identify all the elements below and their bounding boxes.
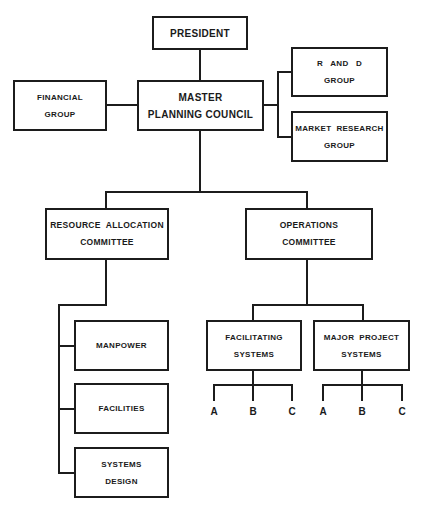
node-label: GROUP [324, 137, 355, 154]
connector-resource-down [105, 259, 107, 306]
node-label: MASTER [178, 89, 222, 106]
node-facilitating-systems: FACILITATING SYSTEMS [206, 320, 302, 371]
connector-to-systems-design [58, 472, 74, 474]
node-master-planning-council: MASTER PLANNING COUNCIL [137, 80, 264, 131]
connector-master-down [199, 130, 201, 193]
node-label: FACILITATING [225, 329, 283, 346]
connector-resource-jog [58, 304, 107, 306]
connector-to-major-project [362, 304, 364, 321]
connector-to-facilities [58, 408, 74, 410]
node-label: MARKET RESEARCH [295, 120, 383, 137]
node-label: PLANNING COUNCIL [148, 106, 253, 123]
connector-major-c [401, 384, 403, 401]
connector-president-master [199, 49, 201, 81]
node-label: COMMITTEE [80, 234, 134, 251]
leaf-major-c: C [394, 406, 410, 417]
connector-committees-bar [105, 191, 308, 193]
node-label: FINANCIAL [37, 89, 83, 106]
leaf-facilitating-a: A [206, 406, 222, 417]
leaf-facilitating-c: C [284, 406, 300, 417]
node-label: MANPOWER [96, 337, 147, 354]
node-label: GROUP [45, 106, 76, 123]
node-facilities: FACILITIES [74, 383, 169, 434]
node-operations-committee: OPERATIONS COMMITTEE [245, 208, 373, 260]
connector-operations-down [306, 259, 308, 306]
connector-to-facilitating [252, 304, 254, 321]
connector-right-bracket-vertical [277, 71, 279, 138]
node-resource-allocation-committee: RESOURCE ALLOCATION COMMITTEE [45, 208, 169, 260]
node-manpower: MANPOWER [74, 320, 169, 371]
node-market-research-group: MARKET RESEARCH GROUP [291, 111, 388, 162]
node-label: R AND D [317, 55, 362, 72]
node-major-project-systems: MAJOR PROJECT SYSTEMS [313, 320, 410, 371]
connector-major-a [322, 384, 324, 401]
node-label: GROUP [324, 72, 355, 89]
node-president: PRESIDENT [152, 16, 248, 50]
connector-systems-bar [252, 304, 364, 306]
node-label: FACILITIES [98, 400, 144, 417]
leaf-facilitating-b: B [245, 406, 261, 417]
node-label: COMMITTEE [282, 234, 336, 251]
connector-resource-spine [58, 304, 60, 474]
node-label: SYSTEMS [101, 456, 141, 473]
node-label: RESOURCE ALLOCATION [50, 217, 164, 234]
node-r-and-d-group: R AND D GROUP [291, 47, 388, 97]
node-label: MAJOR PROJECT [324, 329, 399, 346]
node-label: OPERATIONS [280, 217, 339, 234]
node-label: DESIGN [105, 473, 137, 490]
connector-to-manpower [58, 345, 74, 347]
connector-facilitating-c [291, 384, 293, 401]
connector-to-r-and-d [277, 71, 292, 73]
node-label: SYSTEMS [234, 346, 274, 363]
node-label: PRESIDENT [170, 25, 230, 42]
leaf-major-b: B [354, 406, 370, 417]
node-financial-group: FINANCIAL GROUP [13, 80, 107, 131]
connector-major-abc-bar [322, 384, 403, 386]
connector-to-market-research [277, 136, 292, 138]
connector-to-operations [306, 191, 308, 209]
leaf-major-a: A [315, 406, 331, 417]
connector-to-resource [105, 191, 107, 209]
node-label: SYSTEMS [341, 346, 381, 363]
connector-financial-master [107, 104, 137, 106]
node-systems-design: SYSTEMS DESIGN [74, 447, 169, 498]
connector-facilitating-abc-bar [213, 384, 293, 386]
connector-facilitating-a [213, 384, 215, 401]
